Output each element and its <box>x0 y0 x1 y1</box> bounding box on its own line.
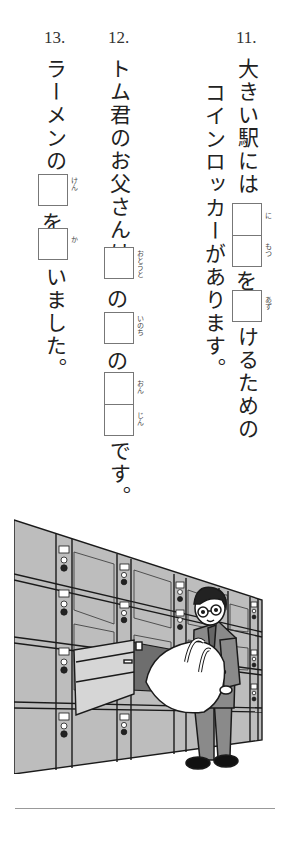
particle: の <box>107 282 128 312</box>
coin-locker-illustration <box>14 512 272 774</box>
question-text: です。 <box>104 440 134 509</box>
answer-box[interactable] <box>232 290 262 322</box>
question-text: いました。 <box>40 266 70 381</box>
furigana: か <box>70 236 78 243</box>
question-text: けるための <box>232 326 262 441</box>
question-number: 11. <box>236 28 257 48</box>
furigana: あず <box>264 296 272 310</box>
furigana: じん <box>136 412 144 426</box>
particle: の <box>107 344 128 374</box>
answer-box[interactable] <box>38 228 68 260</box>
furigana: いのち <box>136 315 144 336</box>
question-text: コインロッカーがあります。 <box>199 82 229 381</box>
question-text: ラーメンの <box>40 58 70 173</box>
answer-box[interactable] <box>232 203 262 235</box>
furigana: おとうと <box>136 250 144 278</box>
question-number: 13. <box>44 28 65 48</box>
question-text: 大きい駅には <box>232 58 262 196</box>
answer-box[interactable] <box>104 372 134 404</box>
furigana: けん <box>70 177 78 191</box>
question-text: トム君のお父さんは <box>104 58 134 265</box>
furigana: もつ <box>264 243 272 257</box>
furigana: おん <box>136 380 144 394</box>
answer-box[interactable] <box>104 247 134 279</box>
horizontal-divider <box>15 808 275 809</box>
answer-box[interactable] <box>104 312 134 344</box>
furigana: に <box>264 212 272 219</box>
question-number: 12. <box>108 28 129 48</box>
answer-box[interactable] <box>104 404 134 436</box>
answer-box[interactable] <box>232 235 262 267</box>
answer-box[interactable] <box>38 174 68 206</box>
